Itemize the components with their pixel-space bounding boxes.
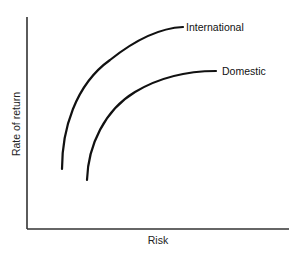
series-international-curve — [62, 27, 183, 169]
efficient-frontier-chart: International Domestic Risk Rate of retu… — [0, 0, 301, 254]
series-label-domestic: Domestic — [222, 65, 266, 77]
x-axis-label: Risk — [148, 234, 169, 246]
series-domestic-curve — [87, 71, 216, 180]
series-label-international: International — [186, 21, 244, 33]
y-axis-label: Rate of return — [10, 92, 22, 156]
